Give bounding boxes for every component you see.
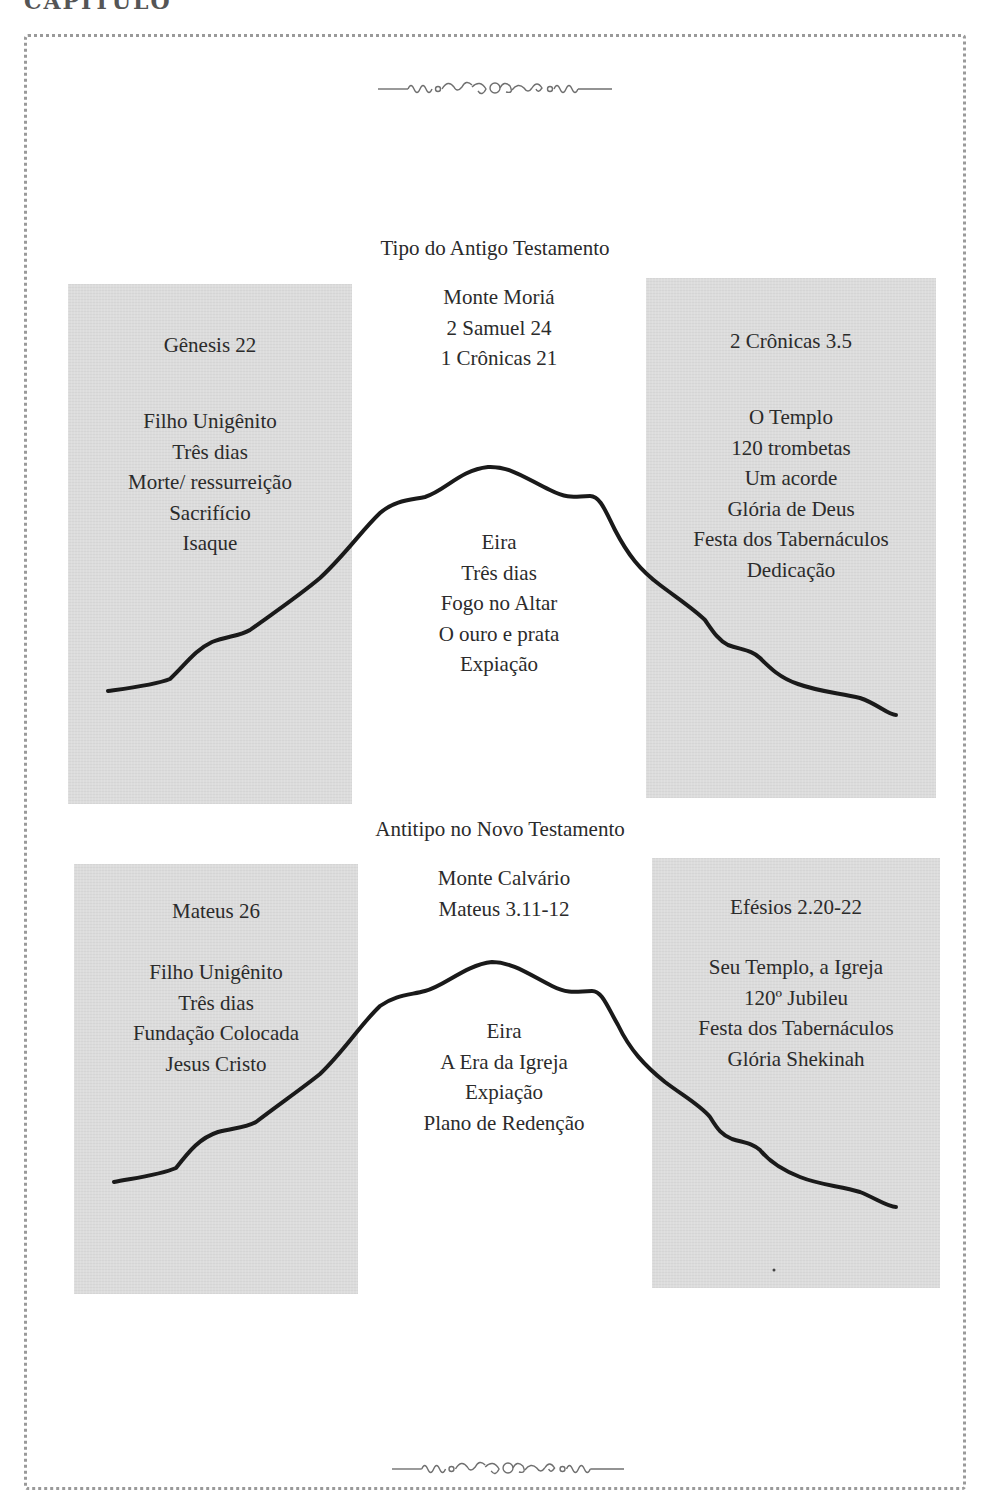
list-item: O ouro e prata bbox=[372, 619, 626, 650]
list-item: Um acorde bbox=[646, 463, 936, 494]
new-testament-left-heading: Mateus 26 bbox=[74, 896, 358, 927]
new-testament-right-heading: Efésios 2.20-22 bbox=[652, 892, 940, 923]
list-item: 120º Jubileu bbox=[652, 983, 940, 1014]
old-testament-right-heading: 2 Crônicas 3.5 bbox=[646, 326, 936, 357]
list-item: Filho Unigênito bbox=[68, 406, 352, 437]
list-item: Expiação bbox=[376, 1077, 632, 1108]
reference-line: 2 Samuel 24 bbox=[372, 313, 626, 344]
reference-line: Monte Moriá bbox=[372, 282, 626, 313]
new-testament-left-items: Filho Unigênito Três dias Fundação Coloc… bbox=[74, 957, 358, 1079]
running-head: CAPÍTULO bbox=[24, 0, 172, 14]
list-item: Seu Templo, a Igreja bbox=[652, 952, 940, 983]
list-item: Fogo no Altar bbox=[372, 588, 626, 619]
old-testament-left-heading: Gênesis 22 bbox=[68, 330, 352, 361]
list-item: Plano de Redenção bbox=[376, 1108, 632, 1139]
reference-line: Mateus 3.11-12 bbox=[376, 894, 632, 925]
list-item: 120 trombetas bbox=[646, 433, 936, 464]
old-testament-mountain-items: Eira Três dias Fogo no Altar O ouro e pr… bbox=[372, 527, 626, 680]
list-item: A Era da Igreja bbox=[376, 1047, 632, 1078]
ornament-divider-top-icon bbox=[378, 78, 612, 98]
ornament-divider-bottom-icon bbox=[392, 1458, 624, 1478]
list-item: Eira bbox=[372, 527, 626, 558]
new-testament-right-items: Seu Templo, a Igreja 120º Jubileu Festa … bbox=[652, 952, 940, 1074]
old-testament-center-references: Monte Moriá 2 Samuel 24 1 Crônicas 21 bbox=[372, 282, 626, 374]
list-item: Jesus Cristo bbox=[74, 1049, 358, 1080]
list-item: Dedicação bbox=[646, 555, 936, 586]
new-testament-title: Antitipo no Novo Testamento bbox=[300, 817, 700, 842]
reference-line: 1 Crônicas 21 bbox=[372, 343, 626, 374]
old-testament-left-items: Filho Unigênito Três dias Morte/ ressurr… bbox=[68, 406, 352, 559]
list-item: Glória de Deus bbox=[646, 494, 936, 525]
list-item: Morte/ ressurreição bbox=[68, 467, 352, 498]
new-testament-center-references: Monte Calvário Mateus 3.11-12 bbox=[376, 863, 632, 924]
list-item: O Templo bbox=[646, 402, 936, 433]
list-item: Sacrifício bbox=[68, 498, 352, 529]
old-testament-title: Tipo do Antigo Testamento bbox=[295, 236, 695, 261]
new-testament-left-box bbox=[74, 864, 358, 1294]
list-item: Três dias bbox=[372, 558, 626, 589]
list-item: Três dias bbox=[68, 437, 352, 468]
old-testament-right-items: O Templo 120 trombetas Um acorde Glória … bbox=[646, 402, 936, 585]
list-item: Isaque bbox=[68, 528, 352, 559]
list-item: Três dias bbox=[74, 988, 358, 1019]
list-item: Fundação Colocada bbox=[74, 1018, 358, 1049]
list-item: Glória Shekinah bbox=[652, 1044, 940, 1075]
list-item: Festa dos Tabernáculos bbox=[646, 524, 936, 555]
new-testament-mountain-items: Eira A Era da Igreja Expiação Plano de R… bbox=[376, 1016, 632, 1138]
list-item: Eira bbox=[376, 1016, 632, 1047]
list-item: Expiação bbox=[372, 649, 626, 680]
reference-line: Monte Calvário bbox=[376, 863, 632, 894]
list-item: Festa dos Tabernáculos bbox=[652, 1013, 940, 1044]
list-item: Filho Unigênito bbox=[74, 957, 358, 988]
